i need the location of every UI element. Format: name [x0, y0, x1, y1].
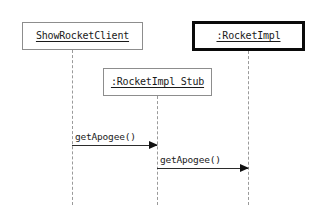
message-label-1: getApogee() — [75, 131, 136, 142]
participant-label-stub: :RocketImpl_Stub — [111, 76, 204, 88]
participant-label-impl: :RocketImpl — [216, 30, 280, 42]
arrowhead-icon — [240, 164, 249, 172]
participant-box-client[interactable]: ShowRocketClient — [22, 22, 143, 50]
message-line-1 — [72, 145, 157, 146]
sequence-diagram-canvas: ShowRocketClient :RocketImpl_Stub :Rocke… — [0, 0, 322, 211]
lifeline-impl — [248, 51, 249, 205]
message-line-2 — [157, 168, 248, 169]
participant-box-stub[interactable]: :RocketImpl_Stub — [103, 68, 212, 96]
message-label-2: getApogee() — [160, 154, 221, 165]
lifeline-client — [72, 50, 73, 205]
lifeline-stub — [157, 96, 158, 205]
participant-box-impl[interactable]: :RocketImpl — [192, 21, 305, 51]
participant-label-client: ShowRocketClient — [36, 30, 129, 42]
arrowhead-icon — [149, 141, 158, 149]
